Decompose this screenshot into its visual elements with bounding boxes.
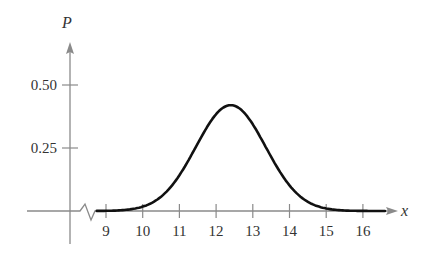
normal-distribution-chart: x P 910111213141516 0.250.50 [0,0,434,253]
x-tick-label: 13 [245,223,260,239]
x-tick-label: 14 [282,223,298,239]
y-ticks: 0.250.50 [31,77,78,156]
y-axis: P [61,14,74,244]
density-curve [97,105,385,211]
x-tick-label: 16 [355,223,371,239]
x-axis-line [27,204,390,220]
y-axis-label: P [61,14,72,31]
x-tick-label: 9 [102,223,110,239]
x-tick-label: 12 [209,223,224,239]
x-tick-label: 11 [172,223,186,239]
y-tick-label: 0.25 [31,140,57,156]
x-tick-label: 10 [135,223,150,239]
x-axis-label: x [400,202,408,219]
y-tick-label: 0.50 [31,77,57,93]
x-tick-label: 15 [319,223,334,239]
